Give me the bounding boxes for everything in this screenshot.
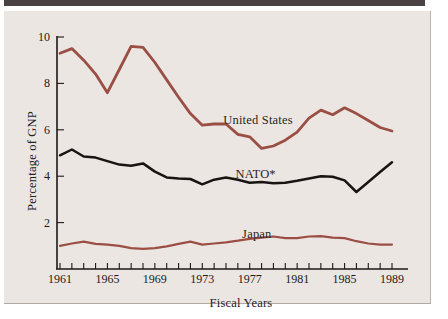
y-tick-label: 2 — [44, 216, 50, 230]
x-tick-label: 1977 — [238, 272, 262, 286]
x-tick-label: 1965 — [95, 272, 119, 286]
y-tick-label: 4 — [44, 169, 50, 183]
x-tick-label: 1969 — [143, 272, 167, 286]
x-tick-label: 1985 — [333, 272, 357, 286]
x-tick-label: 1989 — [380, 272, 404, 286]
series-line-nato — [60, 150, 392, 193]
y-tick-label: 8 — [44, 76, 50, 90]
series-label-nato: NATO* — [235, 167, 275, 181]
x-tick-label: 1973 — [190, 272, 214, 286]
x-tick-label: 1981 — [285, 272, 309, 286]
series-label-united-states: United States — [223, 113, 293, 127]
y-tick-label: 10 — [38, 30, 50, 44]
y-tick-label: 6 — [44, 123, 50, 137]
x-tick-label: 1961 — [48, 272, 72, 286]
series-line-united-states — [60, 46, 392, 148]
gnp-line-chart: 24681019611965196919731977198119851989Un… — [0, 0, 448, 319]
figure-page: Percentage of GNP Fiscal Years 246810196… — [0, 0, 448, 319]
series-line-japan — [60, 236, 392, 249]
series-label-japan: Japan — [242, 227, 272, 241]
